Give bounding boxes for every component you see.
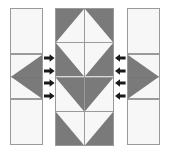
arrow-right-icon xyxy=(44,79,55,87)
quilt-cell-left-r0 xyxy=(10,8,43,54)
hst-light-lower-left-shape xyxy=(85,78,113,111)
hst-light-upper-left-shape xyxy=(85,43,113,76)
arrow-left-icon xyxy=(115,92,126,100)
quilt-cell-center-r1c0 xyxy=(55,42,85,77)
hst-light-lower-right-shape xyxy=(56,78,84,111)
arrow-left-icon xyxy=(115,54,126,62)
arrow-left-icon xyxy=(115,79,126,87)
quilt-cell-left-r2 xyxy=(10,99,43,145)
panel-center-block xyxy=(55,8,114,145)
triangle-point-left-shape xyxy=(11,55,42,99)
arrow-right-icon xyxy=(44,92,55,100)
quilt-cell-center-r0c1 xyxy=(84,8,114,43)
solid-light-shape xyxy=(11,9,42,53)
quilt-cell-center-r0c0 xyxy=(55,8,85,43)
arrow-left-icon xyxy=(115,67,126,75)
assembly-arrows-right xyxy=(115,54,126,100)
quilt-cell-center-r2c0 xyxy=(55,77,85,112)
quilt-cell-center-r3c1 xyxy=(84,111,114,146)
arrow-right-icon xyxy=(44,67,55,75)
hst-light-upper-right-shape xyxy=(56,43,84,76)
quilt-cell-right-r0 xyxy=(127,8,160,54)
arrow-right-icon xyxy=(44,54,55,62)
quilt-cell-center-r3c0 xyxy=(55,111,85,146)
quilt-cell-center-r2c1 xyxy=(84,77,114,112)
panel-right-strip xyxy=(127,8,160,145)
triangle-point-right-shape xyxy=(128,55,159,99)
quilt-cell-left-r1 xyxy=(10,54,43,100)
hst-light-upper-right-shape xyxy=(56,112,84,145)
solid-light-shape xyxy=(128,100,159,144)
hst-light-upper-left-shape xyxy=(85,112,113,145)
diagram-canvas xyxy=(0,0,170,152)
solid-light-shape xyxy=(11,100,42,144)
quilt-cell-right-r2 xyxy=(127,99,160,145)
panel-left-strip xyxy=(10,8,43,145)
solid-light-shape xyxy=(128,9,159,53)
hst-light-lower-right-shape xyxy=(85,9,113,42)
quilt-cell-right-r1 xyxy=(127,54,160,100)
hst-light-lower-left-shape xyxy=(56,9,84,42)
quilt-cell-center-r1c1 xyxy=(84,42,114,77)
assembly-arrows-left xyxy=(44,54,55,100)
